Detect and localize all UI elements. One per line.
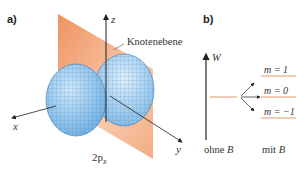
orbital-lobe-front	[46, 64, 106, 136]
caption-with-var: B	[279, 144, 285, 155]
caption-without-field: ohne B	[204, 144, 233, 155]
y-axis-label: y	[176, 143, 181, 155]
caption-with-text: mit	[262, 144, 279, 155]
orbital-label: 2px	[92, 151, 107, 166]
caption-without-text: ohne	[204, 144, 227, 155]
level-label-m-0: m = 0	[264, 85, 288, 96]
arrow-up	[241, 83, 254, 96]
energy-axis-label: W	[212, 52, 221, 63]
level-label-m-plus1: m = 1	[264, 64, 288, 75]
plane-label: Knotenebene	[127, 36, 182, 47]
caption-without-var: B	[227, 144, 233, 155]
orbital-label-sub: x	[103, 157, 107, 166]
z-axis-label: z	[111, 13, 115, 25]
caption-with-field: mit B	[262, 144, 285, 155]
level-label-m-minus1: m = −1	[264, 106, 295, 117]
arrow-down	[241, 98, 254, 111]
orbital-label-main: 2p	[92, 151, 103, 163]
orbital-diagram	[0, 0, 306, 173]
x-axis-label: x	[13, 120, 18, 132]
